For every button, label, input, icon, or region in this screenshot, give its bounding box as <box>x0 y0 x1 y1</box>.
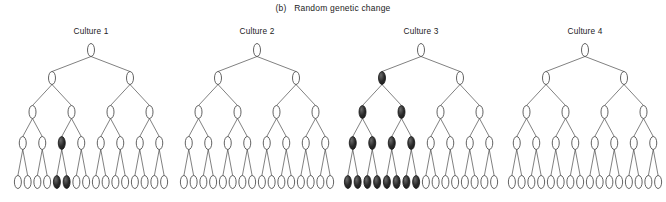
wildtype-cell-node <box>136 137 143 150</box>
lineage-edge <box>431 119 441 137</box>
wildtype-cell-node <box>547 176 554 189</box>
wildtype-cell-node <box>427 137 434 150</box>
lineage-edge <box>392 119 402 137</box>
mutant-cell-node <box>63 176 70 189</box>
lineage-edge <box>52 85 72 106</box>
wildtype-cell-node <box>543 72 550 85</box>
mutant-cell-node <box>349 137 356 150</box>
lineage-tree <box>338 38 504 202</box>
lineage-edge <box>441 119 451 137</box>
lineage-edge <box>546 57 585 72</box>
culture-group-1: Culture 1 <box>8 26 174 202</box>
wildtype-cell-node <box>122 176 129 189</box>
lineage-edge <box>512 150 517 176</box>
lineage-edge <box>595 150 600 176</box>
wildtype-cell-node <box>210 176 217 189</box>
wildtype-cell-node <box>591 137 598 150</box>
lineage-edge <box>223 150 228 176</box>
mutant-cell-node <box>413 176 420 189</box>
lineage-edge <box>189 150 194 176</box>
lineage-edge <box>115 150 120 176</box>
wildtype-cell-node <box>596 176 603 189</box>
lineage-edge <box>267 119 277 137</box>
culture-label: Culture 4 <box>502 26 666 36</box>
lineage-edge <box>546 85 566 106</box>
lineage-edge <box>135 150 140 176</box>
mutant-cell-node <box>408 137 415 150</box>
lineage-edge <box>353 150 358 176</box>
lineage-edge <box>23 150 28 176</box>
wildtype-cell-node <box>567 176 574 189</box>
lineage-edge <box>648 150 653 176</box>
wildtype-cell-node <box>263 137 270 150</box>
wildtype-cell-node <box>476 106 483 119</box>
lineage-tree <box>8 38 174 202</box>
lineage-edge <box>353 119 363 137</box>
wildtype-cell-node <box>621 72 628 85</box>
lineage-edge <box>228 119 238 137</box>
wildtype-cell-node <box>24 176 31 189</box>
lineage-edge <box>470 150 475 176</box>
wildtype-cell-node <box>254 44 261 57</box>
lineage-edge <box>57 150 62 176</box>
wildtype-cell-node <box>528 176 535 189</box>
wildtype-cell-node <box>180 176 187 189</box>
lineage-edge <box>33 85 53 106</box>
lineage-edge <box>634 150 639 176</box>
lineage-edge <box>316 119 326 137</box>
lineage-edge <box>101 150 106 176</box>
wildtype-cell-node <box>533 137 540 150</box>
node-group <box>508 44 661 189</box>
lineage-edge <box>367 150 372 176</box>
lineage-edge <box>218 57 257 72</box>
wildtype-cell-node <box>234 106 241 119</box>
wildtype-cell-node <box>73 176 80 189</box>
wildtype-cell-node <box>244 137 251 150</box>
lineage-edge <box>605 119 615 137</box>
lineage-edge <box>52 57 91 72</box>
lineage-edge <box>301 150 306 176</box>
lineage-edge <box>203 150 208 176</box>
wildtype-cell-node <box>92 176 99 189</box>
lineage-tree <box>174 38 340 202</box>
lineage-edge <box>445 150 450 176</box>
lineage-tree <box>502 38 666 202</box>
wildtype-cell-node <box>650 137 657 150</box>
wildtype-cell-node <box>437 106 444 119</box>
culture-label: Culture 1 <box>8 26 174 36</box>
wildtype-cell-node <box>466 137 473 150</box>
mutant-cell-node <box>388 137 395 150</box>
wildtype-cell-node <box>307 176 314 189</box>
lineage-edge <box>484 150 489 176</box>
lineage-edge <box>624 85 644 106</box>
lineage-edge <box>184 150 189 176</box>
lineage-edge <box>363 119 373 137</box>
lineage-edge <box>18 150 23 176</box>
figure-panel: (b) Random genetic change Culture 1 Cult… <box>0 0 666 202</box>
wildtype-cell-node <box>258 176 265 189</box>
wildtype-cell-node <box>557 176 564 189</box>
wildtype-cell-node <box>273 106 280 119</box>
lineage-edge <box>96 150 101 176</box>
lineage-edge <box>387 150 392 176</box>
lineage-edge <box>585 57 624 72</box>
mutant-cell-node <box>369 137 376 150</box>
wildtype-cell-node <box>68 106 75 119</box>
wildtype-cell-node <box>513 137 520 150</box>
wildtype-cell-node <box>572 137 579 150</box>
wildtype-cell-node <box>486 137 493 150</box>
wildtype-cell-node <box>582 44 589 57</box>
culture-label: Culture 3 <box>338 26 504 36</box>
lineage-tree-svg <box>8 38 174 202</box>
lineage-edge <box>382 57 421 72</box>
lineage-edge <box>120 150 125 176</box>
lineage-edge <box>228 150 233 176</box>
wildtype-cell-node <box>185 137 192 150</box>
lineage-edge <box>570 150 575 176</box>
wildtype-cell-node <box>491 176 498 189</box>
lineage-edge <box>277 85 297 106</box>
lineage-edge <box>566 119 576 137</box>
lineage-edge <box>590 150 595 176</box>
lineage-edge <box>402 119 412 137</box>
wildtype-cell-node <box>83 176 90 189</box>
